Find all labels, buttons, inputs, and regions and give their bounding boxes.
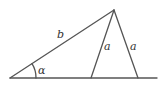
label-side-a-inner: a	[104, 40, 111, 53]
triangle-diagram: b a a α	[0, 0, 159, 85]
label-angle-alpha: α	[38, 64, 46, 77]
side-b-line	[10, 10, 114, 78]
label-side-a-outer: a	[130, 40, 137, 53]
label-side-b: b	[57, 28, 64, 41]
angle-alpha-arc	[32, 64, 36, 78]
